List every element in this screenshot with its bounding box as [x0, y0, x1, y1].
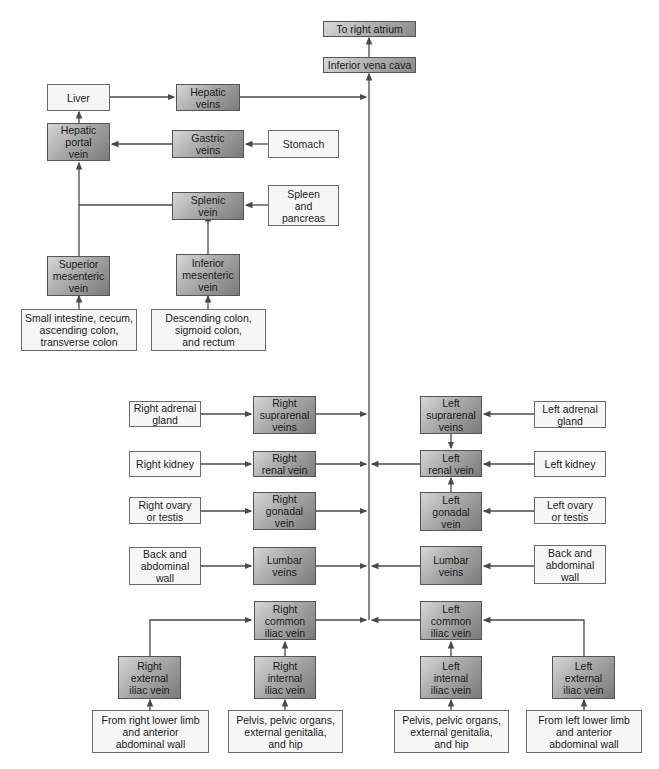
- connector-lines: [0, 0, 659, 769]
- node-right-suprarenal-veins: Right suprarenal veins: [253, 396, 316, 434]
- node-left-lower-limb: From left lower limb and anterior abdomi…: [526, 710, 642, 753]
- node-right-common-iliac: Right common iliac vein: [254, 601, 316, 640]
- node-right-adrenal-gland: Right adrenal gland: [129, 401, 201, 427]
- node-splenic-vein: Splenic vein: [172, 192, 244, 220]
- node-small-intestine: Small intestine, cecum, ascending colon,…: [21, 309, 137, 351]
- node-right-renal-vein: Right renal vein: [253, 451, 316, 477]
- node-right-ovary-testis: Right ovary or testis: [129, 497, 201, 524]
- node-right-lower-limb: From right lower limb and anterior abdom…: [92, 710, 209, 753]
- node-hepatic-portal-vein: Hepatic portal vein: [47, 123, 110, 161]
- node-left-gonadal-vein: Left gonadal vein: [420, 492, 482, 531]
- node-liver: Liver: [47, 84, 110, 111]
- node-right-back-wall: Back and abdominal wall: [129, 547, 201, 585]
- node-inferior-vena-cava: Inferior vena cava: [323, 57, 416, 73]
- node-left-pelvis: Pelvis, pelvic organs, external genitali…: [394, 710, 509, 753]
- node-left-suprarenal-veins: Left suprarenal veins: [420, 396, 482, 434]
- node-stomach: Stomach: [268, 130, 339, 158]
- node-left-external-iliac: Left external iliac vein: [552, 656, 615, 699]
- node-right-external-iliac: Right external iliac vein: [118, 656, 181, 699]
- node-right-pelvis: Pelvis, pelvic organs, external genitali…: [228, 710, 343, 753]
- node-left-internal-iliac: Left internal iliac vein: [420, 656, 482, 699]
- node-right-internal-iliac: Right internal iliac vein: [254, 656, 316, 699]
- node-left-kidney: Left kidney: [534, 451, 606, 477]
- node-to-right-atrium: To right atrium: [323, 21, 416, 37]
- node-left-adrenal-gland: Left adrenal gland: [534, 401, 606, 428]
- node-gastric-veins: Gastric veins: [172, 130, 244, 158]
- node-spleen-pancreas: Spleen and pancreas: [268, 185, 339, 226]
- node-right-gonadal-vein: Right gonadal vein: [253, 492, 316, 530]
- node-descending-colon: Descending colon, sigmoid colon, and rec…: [151, 309, 266, 351]
- node-left-lumbar-veins: Lumbar veins: [420, 546, 482, 585]
- node-left-ovary-testis: Left ovary or testis: [534, 497, 606, 524]
- node-right-kidney: Right kidney: [129, 451, 201, 477]
- node-left-back-wall: Back and abdominal wall: [534, 545, 606, 584]
- node-right-lumbar-veins: Lumbar veins: [253, 547, 316, 585]
- node-hepatic-veins: Hepatic veins: [176, 84, 240, 111]
- node-inferior-mesenteric-vein: Inferior mesenteric vein: [176, 254, 240, 296]
- node-left-renal-vein: Left renal vein: [420, 450, 482, 477]
- node-left-common-iliac: Left common iliac vein: [420, 601, 482, 640]
- node-superior-mesenteric-vein: Superior mesenteric vein: [47, 256, 110, 296]
